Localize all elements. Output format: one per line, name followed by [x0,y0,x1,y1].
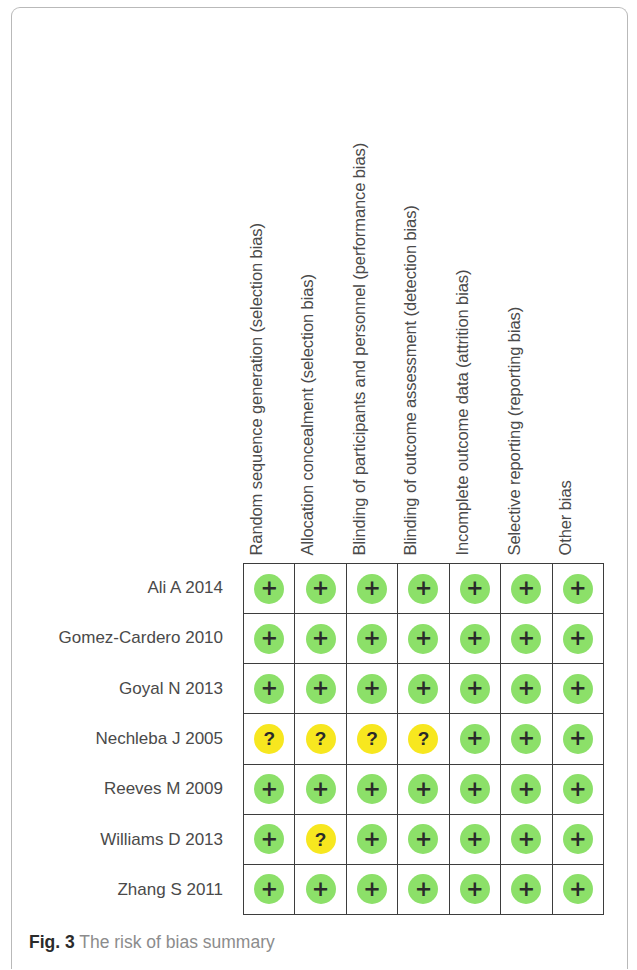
risk-glyph: + [569,728,587,749]
low-risk-icon: + [563,874,593,904]
risk-glyph: + [312,578,330,599]
risk-glyph: + [518,779,536,800]
risk-glyph: + [415,779,433,800]
risk-glyph: + [466,728,484,749]
low-risk-icon: + [306,674,336,704]
risk-cell: + [347,664,398,714]
risk-glyph: + [518,678,536,699]
risk-glyph: + [466,578,484,599]
column-headers: Random sequence generation (selection bi… [243,0,604,563]
risk-glyph: + [415,829,433,850]
risk-cell: + [347,765,398,815]
risk-cell: + [244,765,295,815]
low-risk-icon: + [357,674,387,704]
risk-cell: + [501,564,552,614]
unclear-risk-icon: ? [306,824,336,854]
risk-glyph: ? [418,729,430,748]
low-risk-icon: + [357,874,387,904]
risk-cell: + [295,664,346,714]
risk-cell: + [450,664,501,714]
risk-cell: + [244,564,295,614]
risk-cell: + [553,614,604,664]
risk-glyph: + [569,578,587,599]
risk-glyph: ? [315,830,327,849]
column-header-label: Blinding of participants and personnel (… [350,142,367,555]
risk-glyph: + [312,879,330,900]
low-risk-icon: + [563,674,593,704]
column-header-label: Incomplete outcome data (attrition bias) [454,269,471,555]
low-risk-icon: + [460,674,490,704]
low-risk-icon: + [460,574,490,604]
risk-cell: + [244,614,295,664]
risk-cell: + [398,765,449,815]
risk-glyph: + [312,678,330,699]
risk-glyph: ? [366,729,378,748]
figure-caption-label: Fig. 3 [29,932,75,952]
low-risk-icon: + [511,874,541,904]
risk-cell: + [553,865,604,915]
risk-glyph: + [518,728,536,749]
risk-cell: + [398,564,449,614]
risk-glyph: + [415,879,433,900]
row-label-study: Nechleba J 2005 [0,714,233,764]
column-header-label: Allocation concealment (selection bias) [299,274,316,555]
low-risk-icon: + [563,724,593,754]
risk-cell: ? [398,714,449,764]
risk-cell: + [553,564,604,614]
risk-glyph: + [569,879,587,900]
column-header-label: Other bias [557,480,574,555]
risk-cell: + [347,564,398,614]
low-risk-icon: + [460,874,490,904]
risk-cell: ? [295,714,346,764]
low-risk-icon: + [254,824,284,854]
risk-cell: + [553,815,604,865]
risk-cell: + [553,664,604,714]
risk-glyph: + [260,578,278,599]
risk-cell: + [501,714,552,764]
row-label-study: Williams D 2013 [0,814,233,864]
low-risk-icon: + [357,774,387,804]
risk-cell: + [553,714,604,764]
low-risk-icon: + [306,574,336,604]
low-risk-icon: + [460,824,490,854]
low-risk-icon: + [460,774,490,804]
risk-of-bias-summary-figure: Random sequence generation (selection bi… [0,0,637,925]
risk-cell: + [398,664,449,714]
risk-cell: + [398,865,449,915]
risk-glyph: + [415,628,433,649]
low-risk-icon: + [357,624,387,654]
risk-glyph: + [260,628,278,649]
low-risk-icon: + [511,774,541,804]
risk-glyph: + [260,779,278,800]
low-risk-icon: + [408,674,438,704]
risk-glyph: + [260,879,278,900]
low-risk-icon: + [460,624,490,654]
risk-glyph: + [363,578,381,599]
low-risk-icon: + [254,624,284,654]
risk-cell: + [347,865,398,915]
risk-cell: + [347,614,398,664]
row-labels: Ali A 2014Gomez-Cardero 2010Goyal N 2013… [0,563,233,915]
low-risk-icon: + [511,824,541,854]
column-header-label: Random sequence generation (selection bi… [247,223,264,555]
risk-cell: + [450,564,501,614]
risk-cell: + [295,564,346,614]
risk-cell: + [295,865,346,915]
risk-cell: ? [244,714,295,764]
risk-glyph: + [363,879,381,900]
risk-cell: + [501,664,552,714]
risk-cell: + [501,614,552,664]
low-risk-icon: + [306,874,336,904]
risk-of-bias-grid: +++++++++++++++++++++????+++++++++++?+++… [243,563,604,915]
risk-cell: + [398,815,449,865]
risk-glyph: + [569,628,587,649]
risk-glyph: + [518,578,536,599]
low-risk-icon: + [408,774,438,804]
risk-glyph: + [466,628,484,649]
risk-cell: + [501,865,552,915]
risk-cell: + [244,664,295,714]
risk-glyph: + [518,879,536,900]
low-risk-icon: + [563,824,593,854]
low-risk-icon: + [511,624,541,654]
risk-glyph: + [569,829,587,850]
